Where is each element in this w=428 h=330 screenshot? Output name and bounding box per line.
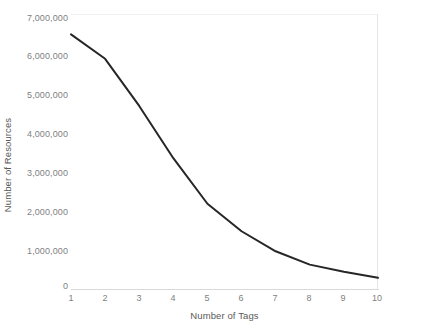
plot-area [71,14,378,289]
x-tick-label-1: 1 [59,293,83,303]
y-tick-label-5000000: 5,000,000 [2,90,68,100]
line-chart: Number of Resources 7,000,000 6,000,000 … [0,0,428,330]
x-tick-label-6: 6 [229,293,253,303]
y-tick-label-7000000: 7,000,000 [2,13,68,23]
x-tick-label-3: 3 [127,293,151,303]
y-tick-label-3000000: 3,000,000 [2,168,68,178]
x-axis-title-label: Number of Tags [190,310,258,321]
series-line-number-of-resources [71,14,378,289]
series-polyline [71,34,378,277]
y-tick-label-4000000: 4,000,000 [2,129,68,139]
x-axis-title: Number of Tags [71,310,378,321]
y-axis-tick-labels: 7,000,000 6,000,000 5,000,000 4,000,000 … [0,0,68,330]
x-axis-line [71,289,379,290]
x-tick-label-10: 10 [365,293,389,303]
y-tick-label-6000000: 6,000,000 [2,51,68,61]
x-tick-label-9: 9 [331,293,355,303]
y-tick-label-1000000: 1,000,000 [2,246,68,256]
y-tick-label-2000000: 2,000,000 [2,207,68,217]
x-tick-label-7: 7 [263,293,287,303]
x-tick-label-5: 5 [195,293,219,303]
x-tick-label-2: 2 [93,293,117,303]
x-tick-label-4: 4 [161,293,185,303]
y-tick-label-0: 0 [2,281,68,291]
x-tick-label-8: 8 [297,293,321,303]
